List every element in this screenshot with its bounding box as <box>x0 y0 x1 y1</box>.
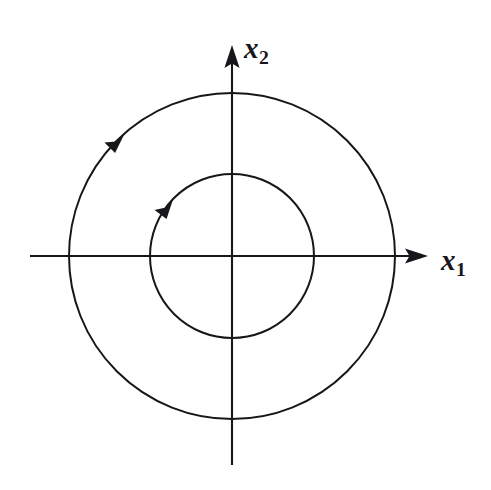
x2-axis-label: x2 <box>244 34 269 68</box>
x2-axis-label-main: x <box>244 32 259 64</box>
phase-portrait-canvas <box>0 0 491 490</box>
x2-axis-label-subscript: 2 <box>259 46 269 68</box>
x1-axis-label: x1 <box>441 246 466 280</box>
x1-axis-label-main: x <box>441 244 456 276</box>
x1-axis-label-subscript: 1 <box>456 258 466 280</box>
phase-portrait-figure: x2 x1 <box>0 0 491 490</box>
